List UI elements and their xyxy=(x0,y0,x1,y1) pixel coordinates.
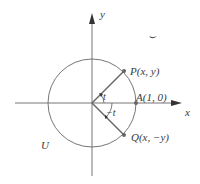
unit-circle-diagram xyxy=(0,0,200,184)
point-a-label: A(1, 0) xyxy=(136,92,167,103)
angle-neg-t-label: −t xyxy=(106,108,116,118)
point-p xyxy=(122,69,126,73)
y-axis-label: y xyxy=(100,9,105,20)
angle-t-label: t xyxy=(103,92,106,102)
stray-mark: ⌣ xyxy=(148,30,156,42)
x-axis-arrow-icon xyxy=(171,100,182,106)
x-axis-label: x xyxy=(185,107,190,118)
point-q-label: Q(x, −y) xyxy=(131,132,169,143)
radius-op xyxy=(92,71,124,103)
y-axis-arrow-icon xyxy=(89,13,95,24)
point-p-label: P(x, y) xyxy=(130,66,159,77)
circle-u-label: U xyxy=(41,140,49,151)
point-q xyxy=(122,133,126,137)
